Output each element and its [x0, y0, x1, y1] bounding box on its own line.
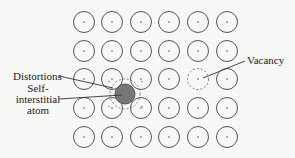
vacancy-leader-line	[203, 61, 245, 78]
lattice-atom	[159, 41, 180, 62]
lattice-atom	[188, 127, 209, 148]
lattice-atom	[74, 127, 95, 148]
lattice-atom	[74, 69, 95, 90]
lattice-atom	[74, 41, 95, 62]
lattice-atom	[131, 69, 152, 90]
distortions-label: Distortions	[13, 71, 62, 82]
lattice-atom	[159, 12, 180, 33]
lattice-atom	[102, 41, 123, 62]
lattice-atom	[102, 127, 123, 148]
distortions-leader-line	[59, 76, 113, 88]
lattice-atom	[188, 12, 209, 33]
lattice-atom	[159, 98, 180, 119]
vacancy-site	[188, 69, 209, 90]
self-interstitial-atom	[115, 84, 135, 104]
lattice-atom	[102, 12, 123, 33]
self-interstitial-label: Self- interstitial atom	[14, 83, 62, 116]
lattice-atom	[131, 98, 152, 119]
lattice-atom	[74, 98, 95, 119]
lattice-atom	[74, 12, 95, 33]
lattice-atom	[131, 127, 152, 148]
lattice-atoms	[74, 12, 238, 148]
leader-lines	[59, 61, 245, 99]
lattice-atom	[188, 98, 209, 119]
lattice-atom	[131, 41, 152, 62]
lattice-atom	[217, 127, 238, 148]
interstitial-leader-line	[59, 95, 122, 99]
lattice-atom	[131, 12, 152, 33]
lattice-atom	[217, 98, 238, 119]
lattice-atom	[159, 69, 180, 90]
lattice-atom	[159, 127, 180, 148]
vacancy-label: Vacancy	[247, 55, 284, 66]
lattice-atom	[217, 41, 238, 62]
self-interstitial-label-line3: atom	[14, 105, 62, 116]
lattice-atom	[188, 41, 209, 62]
lattice-atom	[217, 12, 238, 33]
